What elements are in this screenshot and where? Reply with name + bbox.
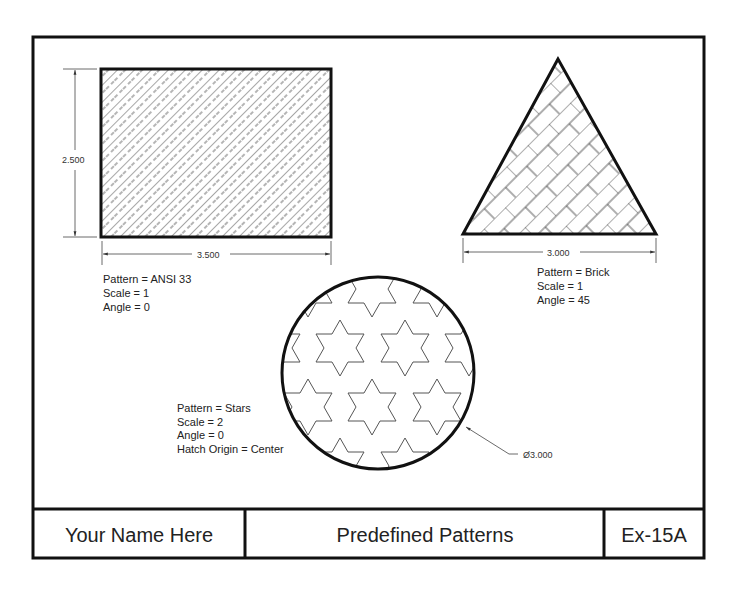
scale-note: Scale = 1 [103,287,149,299]
rectangle-width-label: 3.500 [197,250,220,260]
circle-diameter-label: Ø3.000 [523,450,553,460]
rectangle-width-dimension: 3.500 [102,241,331,265]
rectangle-height-label: 2.500 [62,155,85,165]
scale-note: Scale = 2 [177,416,223,428]
triangle-pattern-notes: Pattern = Brick Scale = 1 Angle = 45 [537,266,610,306]
triangle-base-dimension: 3.000 [463,238,656,263]
angle-note: Angle = 45 [537,294,590,306]
angle-note: Angle = 0 [103,301,150,313]
hatch-origin-note: Hatch Origin = Center [177,443,284,455]
sheet-number: Ex-15A [621,524,687,546]
author-name: Your Name Here [65,524,213,546]
rectangle-pattern-notes: Pattern = ANSI 33 Scale = 1 Angle = 0 [103,273,191,313]
hatched-triangle[interactable] [463,59,656,234]
circle-diameter-dimension: Ø3.000 [466,427,553,460]
title-block: Your Name Here Predefined Patterns Ex-15… [33,509,704,558]
hatched-rectangle[interactable] [101,69,331,237]
drawing-title: Predefined Patterns [337,524,514,546]
triangle-base-label: 3.000 [547,248,570,258]
scale-note: Scale = 1 [537,280,583,292]
pattern-note: Pattern = ANSI 33 [103,273,191,285]
angle-note: Angle = 0 [177,429,224,441]
pattern-note: Pattern = Stars [177,402,251,414]
hatched-circle[interactable] [252,261,493,494]
rectangle-height-dimension: 2.500 [62,69,97,237]
drawing-sheet: 2.500 3.500 Pattern = ANSI 33 Scale = 1 … [0,0,743,591]
pattern-note: Pattern = Brick [537,266,610,278]
circle-pattern-notes: Pattern = Stars Scale = 2 Angle = 0 Hatc… [177,402,284,455]
